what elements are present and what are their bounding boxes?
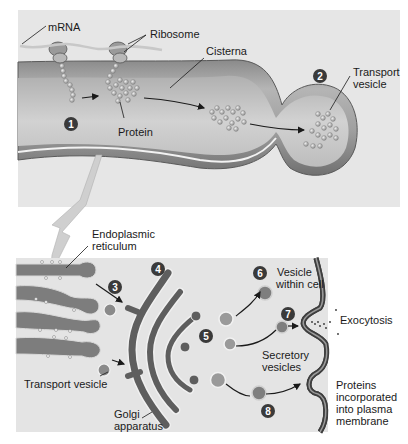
- label-secretory-l1: Secretory: [262, 349, 310, 361]
- svg-text:7: 7: [285, 309, 291, 320]
- label-er-l1: Endoplasmic: [92, 228, 155, 240]
- step-badge-2: 2: [313, 69, 327, 83]
- label-golgi-l1: Golgi: [114, 408, 140, 420]
- label-secretory-l2: vesicles: [262, 361, 302, 373]
- label-transport-vesicle-l2: vesicle: [353, 78, 387, 90]
- label-ribosome: Ribosome: [150, 28, 200, 40]
- svg-text:4: 4: [155, 264, 161, 275]
- label-proteins-l3: into plasma: [336, 403, 393, 415]
- svg-text:6: 6: [257, 268, 263, 279]
- step-badge-4: 4: [151, 262, 165, 276]
- step-badge-1: 1: [64, 117, 78, 131]
- top-panel: mRNA Ribosome Cisterna Protein Transport…: [18, 10, 400, 207]
- label-cisterna: Cisterna: [206, 45, 248, 57]
- step-badge-8: 8: [261, 404, 275, 418]
- label-protein: Protein: [118, 126, 153, 138]
- svg-text:2: 2: [317, 71, 323, 82]
- label-proteins-l4: membrane: [336, 415, 389, 427]
- step-badge-7: 7: [281, 307, 295, 321]
- label-golgi-l2: apparatus: [114, 420, 163, 432]
- label-transport-vesicle: Transport vesicle: [24, 378, 107, 390]
- label-vesicle-within-cell-l1: Vesicle: [277, 266, 312, 278]
- label-exocytosis: Exocytosis: [340, 314, 393, 326]
- label-proteins-l1: Proteins: [336, 379, 377, 391]
- step-badge-6: 6: [253, 266, 267, 280]
- svg-text:1: 1: [68, 119, 74, 130]
- label-proteins-l2: incorporated: [336, 391, 397, 403]
- step-badge-5: 5: [199, 329, 213, 343]
- protein-secretion-diagram: mRNA Ribosome Cisterna Protein Transport…: [0, 0, 408, 444]
- label-er-l2: reticulum: [92, 240, 137, 252]
- svg-text:5: 5: [203, 331, 209, 342]
- svg-text:3: 3: [112, 282, 118, 293]
- bottom-panel: Endoplasmic reticulum Transport vesicle …: [16, 228, 408, 432]
- label-mrna: mRNA: [48, 21, 81, 33]
- step-badge-3: 3: [108, 280, 122, 294]
- label-vesicle-within-cell-l2: within cell: [275, 278, 324, 290]
- transport-vesicle: [104, 304, 116, 316]
- svg-text:8: 8: [265, 406, 271, 417]
- label-transport-vesicle-l1: Transport: [353, 66, 400, 78]
